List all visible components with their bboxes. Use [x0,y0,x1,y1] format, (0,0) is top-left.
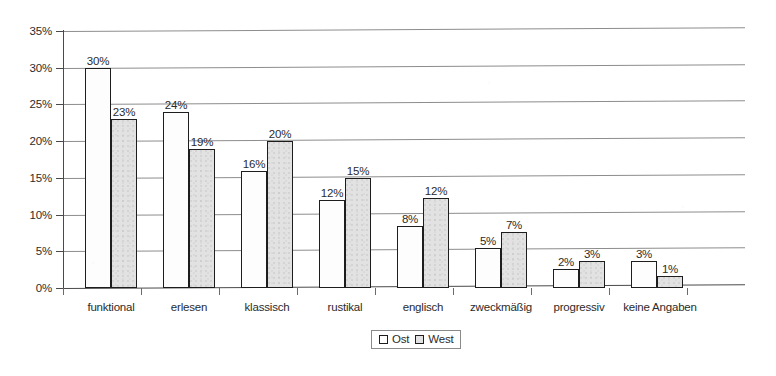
bar-value-ost-rustikal: 12% [321,187,343,199]
legend-entry-west: West [415,333,453,345]
y-axis-label-10: 10% [10,209,52,221]
y-tick-0 [56,288,63,289]
x-tick-3 [297,288,298,295]
bar-value-west-rustikal: 15% [347,165,369,177]
x-tick-5 [453,288,454,295]
bar-value-west-keine-angaben: 1% [662,263,678,275]
bar-value-west-klassisch: 20% [269,128,291,140]
bar-value-ost-progressiv: 2% [558,256,574,268]
y-tick-10 [56,215,63,216]
y-axis-label-20: 20% [10,135,52,147]
bar-value-ost-funktional: 30% [87,55,109,67]
bar-west-funktional: 23% [111,119,137,288]
bar-west-keine-angaben: 1% [657,276,683,288]
y-axis-label-5: 5% [10,245,52,257]
x-tick-6 [531,288,532,295]
gridline-35 [63,27,745,32]
legend-entry-ost: Ost [379,333,409,345]
bar-ost-progressiv: 2% [553,269,579,288]
bar-west-erlesen: 19% [189,149,215,289]
y-tick-35 [56,31,63,32]
legend-swatch-ost-icon [379,335,388,344]
x-axis-label-progressiv: progressiv [553,301,604,313]
bar-west-rustikal: 15% [345,178,371,288]
x-tick-0 [63,288,64,295]
x-axis-label-erlesen: erlesen [171,301,207,313]
legend-label-ost: Ost [392,333,409,345]
bar-west-progressiv: 3% [579,261,605,288]
bar-ost-rustikal: 12% [319,200,345,288]
y-axis-label-0: 0% [10,282,52,294]
y-axis-label-30: 30% [10,62,52,74]
bar-ost-keine-angaben: 3% [631,261,657,288]
bar-value-west-zweckmaessig: 7% [506,219,522,231]
x-tick-8 [687,288,688,295]
y-tick-5 [56,251,63,252]
bar-ost-englisch: 8% [397,226,423,288]
y-axis-label-15: 15% [10,172,52,184]
y-axis-label-25: 25% [10,98,52,110]
bar-value-west-englisch: 12% [425,185,447,197]
x-axis-label-funktional: funktional [87,301,134,313]
x-tick-1 [141,288,142,295]
bar-value-ost-englisch: 8% [402,213,418,225]
x-axis-label-keine-angaben: keine Angaben [623,301,697,313]
bar-west-englisch: 12% [423,198,449,288]
x-axis-label-zweckmaessig: zweckmäßig [470,301,532,313]
y-tick-25 [56,104,63,105]
chart-legend: Ost West [371,330,461,349]
y-axis-line [63,30,64,289]
y-tick-30 [56,68,63,69]
bar-ost-klassisch: 16% [241,171,267,289]
plot-area: 30% 23% 24% 19% 16% 20% 12% [63,31,745,288]
y-axis-label-35: 35% [10,25,52,37]
y-tick-15 [56,178,63,179]
y-tick-20 [56,141,63,142]
bar-west-zweckmaessig: 7% [501,232,527,288]
bar-ost-erlesen: 24% [163,112,189,288]
x-tick-2 [219,288,220,295]
gridline-30 [63,64,745,69]
bar-ost-zweckmaessig: 5% [475,248,501,288]
bar-value-ost-keine-angaben: 3% [636,248,652,260]
bar-ost-funktional: 30% [85,68,111,288]
x-axis-label-englisch: englisch [403,301,444,313]
x-tick-7 [609,288,610,295]
bar-value-west-progressiv: 3% [584,248,600,260]
x-axis-label-klassisch: klassisch [245,301,290,313]
bar-value-west-funktional: 23% [113,106,135,118]
legend-label-west: West [428,333,453,345]
x-tick-4 [375,288,376,295]
bar-value-ost-zweckmaessig: 5% [480,235,496,247]
bar-chart: 30% 23% 24% 19% 16% 20% 12% [0,0,776,376]
bar-value-ost-klassisch: 16% [243,158,265,170]
x-axis-label-rustikal: rustikal [328,301,363,313]
bar-value-ost-erlesen: 24% [165,99,187,111]
bar-value-west-erlesen: 19% [191,136,213,148]
legend-swatch-west-icon [415,335,424,344]
bar-west-klassisch: 20% [267,141,293,288]
